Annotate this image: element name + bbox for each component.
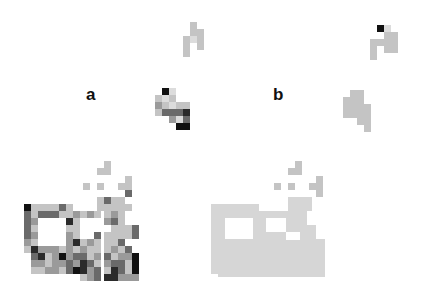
- grid-cell: [94, 211, 101, 218]
- grid-cell: [104, 239, 111, 246]
- grid-cell: [357, 104, 364, 111]
- grid-cell: [132, 253, 139, 260]
- grid-cell: [343, 97, 350, 104]
- grid-cell: [288, 168, 295, 175]
- grid-cell: [391, 32, 398, 39]
- grid-cell: [118, 246, 125, 253]
- grid-cell: [80, 260, 87, 267]
- grid-cell: [316, 183, 323, 190]
- grid-cell: [118, 232, 125, 239]
- grid-cell: [111, 211, 118, 218]
- grid-cell: [87, 211, 94, 218]
- grid-cell: [104, 267, 111, 274]
- grid-cell: [38, 204, 45, 211]
- grid-cell: [118, 218, 125, 225]
- panel-label-b: b: [273, 86, 283, 103]
- grid-cell: [197, 36, 204, 43]
- grid-cell: [162, 102, 169, 109]
- grid-cell: [132, 225, 139, 232]
- grid-cell: [190, 22, 197, 29]
- grid-cell: [24, 204, 31, 211]
- grid-cell: [190, 36, 197, 43]
- grid-cell: [87, 260, 94, 267]
- grid-cell: [94, 274, 101, 281]
- grid-cell: [125, 246, 132, 253]
- grid-cell: [31, 253, 38, 260]
- grid-cell: [24, 225, 31, 232]
- grid-cell: [66, 204, 73, 211]
- grid-cell: [66, 218, 73, 225]
- grid-cell: [52, 253, 59, 260]
- grid-cell: [155, 109, 162, 116]
- grid-cell: [59, 246, 66, 253]
- grid-cell: [45, 253, 52, 260]
- grid-cell: [111, 204, 118, 211]
- grid-cell: [73, 211, 80, 218]
- grid-cell: [97, 204, 104, 211]
- grid-cell: [59, 267, 66, 274]
- grid-cell: [104, 197, 111, 204]
- grid-cell: [343, 111, 350, 118]
- grid-cell: [384, 46, 391, 53]
- grid-cell: [125, 260, 132, 267]
- grid-cell: [391, 39, 398, 46]
- grid-cell: [73, 218, 80, 225]
- grid-cell: [364, 111, 371, 118]
- grid-cell: [73, 239, 80, 246]
- grid-cell: [104, 161, 111, 168]
- grid-cell: [111, 253, 118, 260]
- grid-cell: [73, 253, 80, 260]
- grid-cell: [73, 267, 80, 274]
- grid-cell: [377, 25, 384, 32]
- grid-cell: [111, 218, 118, 225]
- grid-cell: [24, 246, 31, 253]
- grid-cell: [125, 204, 132, 211]
- grid-cell: [31, 204, 38, 211]
- grid-cell: [66, 225, 73, 232]
- grid-cell: [343, 104, 350, 111]
- grid-hole: [225, 218, 253, 239]
- grid-cell: [104, 246, 111, 253]
- grid-cell: [350, 104, 357, 111]
- grid-cell: [80, 239, 87, 246]
- grid-cell: [176, 123, 183, 130]
- grid-cell: [364, 125, 371, 132]
- grid-cell: [155, 102, 162, 109]
- grid-cell: [370, 39, 377, 46]
- grid-cell: [45, 260, 52, 267]
- grid-cell: [350, 111, 357, 118]
- grid-cell: [377, 39, 384, 46]
- grid-cell: [118, 239, 125, 246]
- grid-cell: [73, 225, 80, 232]
- grid-cell: [31, 260, 38, 267]
- grid-cell: [118, 183, 125, 190]
- grid-cell: [357, 90, 364, 97]
- grid-cell: [132, 260, 139, 267]
- grid-cell: [350, 90, 357, 97]
- grid-cell: [118, 197, 125, 204]
- grid-cell: [183, 116, 190, 123]
- grid-cell: [183, 50, 190, 57]
- grid-cell: [31, 211, 38, 218]
- grid-cell: [197, 43, 204, 50]
- grid-cell: [66, 211, 73, 218]
- grid-cell: [104, 211, 111, 218]
- grid-cell: [125, 267, 132, 274]
- grid-cell: [288, 183, 295, 190]
- grid-cell: [176, 102, 183, 109]
- grid-cell: [104, 253, 111, 260]
- grid-cell: [391, 46, 398, 53]
- grid-cell: [31, 232, 38, 239]
- grid-cell: [104, 168, 111, 175]
- grid-cell: [52, 246, 59, 253]
- grid-cell: [38, 211, 45, 218]
- grid-cell: [73, 260, 80, 267]
- grid-cell: [45, 267, 52, 274]
- grid-cell: [87, 267, 94, 274]
- grid-cell: [94, 246, 101, 253]
- grid-cell: [97, 168, 104, 175]
- grid-cell: [24, 239, 31, 246]
- grid-cell: [118, 225, 125, 232]
- grid-cell: [80, 274, 87, 281]
- grid-region: [300, 225, 316, 240]
